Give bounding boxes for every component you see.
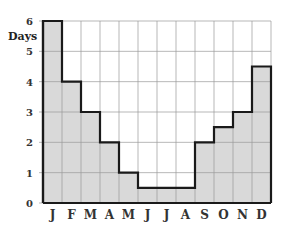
x-axis-ticks: JFMAMJJASOND: [49, 208, 267, 222]
x-tick-label: M: [84, 208, 97, 222]
y-tick-label: 1: [26, 168, 33, 179]
x-tick-label: M: [122, 208, 135, 222]
bar: [81, 112, 100, 203]
bar: [214, 127, 233, 203]
bar: [252, 67, 271, 204]
bar: [176, 188, 195, 203]
x-tick-label: A: [104, 208, 115, 222]
y-tick-label: 4: [26, 77, 33, 88]
y-axis-ticks: 0123456: [26, 16, 33, 209]
y-tick-label: 5: [26, 46, 33, 57]
y-tick-label: 2: [26, 137, 33, 148]
x-tick-label: F: [67, 208, 76, 222]
x-tick-label: S: [200, 208, 209, 222]
bar: [119, 173, 138, 203]
x-tick-label: J: [49, 208, 56, 222]
x-tick-label: J: [163, 208, 170, 222]
y-tick-label: 0: [26, 198, 33, 209]
x-tick-label: D: [256, 208, 266, 222]
rainfall-days-chart: 0123456 JFMAMJJASOND Days: [0, 0, 285, 232]
x-tick-label: N: [237, 208, 248, 222]
bar: [157, 188, 176, 203]
x-tick-label: J: [144, 208, 151, 222]
bar: [233, 112, 252, 203]
y-tick-label: 6: [26, 16, 33, 27]
x-tick-label: A: [180, 208, 191, 222]
y-axis-label: Days: [8, 30, 37, 43]
x-tick-label: O: [218, 208, 228, 222]
bar: [138, 188, 157, 203]
y-tick-label: 3: [26, 107, 33, 118]
